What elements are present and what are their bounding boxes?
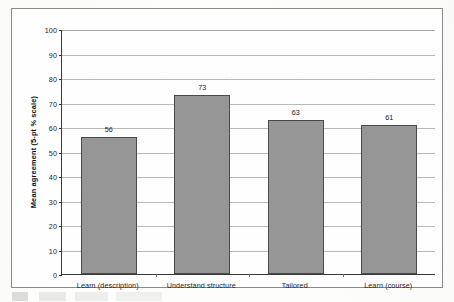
x-axis-category-label: Understand structure: [167, 281, 236, 290]
bar-slot: 63: [249, 30, 343, 274]
bar-slot: 61: [343, 30, 437, 274]
x-axis-category-label: Tailored: [282, 281, 308, 290]
y-axis-title: Mean agreement (5-pt % scale): [29, 96, 38, 208]
plot-axes: 0102030405060708090100 56736361: [61, 30, 435, 275]
bar[interactable]: [361, 125, 417, 274]
y-axis-tick-label: 40: [49, 173, 57, 182]
clipped-caption-artifact: [12, 292, 162, 301]
bar-slot: 56: [62, 30, 156, 274]
y-axis-tick-label: 20: [49, 222, 57, 231]
bar[interactable]: [268, 120, 324, 274]
x-axis-category-label: Learn (course): [364, 281, 412, 290]
y-axis-tick-label: 60: [49, 124, 57, 133]
y-axis-tick-label: 100: [45, 26, 57, 35]
bar-value-label: 61: [385, 113, 393, 122]
y-axis-tick-label: 70: [49, 99, 57, 108]
bar-slot: 73: [156, 30, 250, 274]
bar-series: 56736361: [62, 30, 435, 274]
bar-value-label: 56: [105, 125, 113, 134]
x-axis-tick-mark: [156, 274, 157, 277]
bar[interactable]: [81, 137, 137, 274]
y-axis-tick-label: 50: [49, 148, 57, 157]
y-axis-tick-label: 30: [49, 197, 57, 206]
chart-frame: Mean agreement (5-pt % scale) 0102030405…: [11, 8, 443, 288]
y-axis-tick-label: 0: [53, 271, 57, 280]
bar[interactable]: [174, 95, 230, 274]
plot-area: 0102030405060708090100 56736361: [61, 30, 435, 275]
bar-value-label: 73: [198, 83, 206, 92]
x-axis-tick-mark: [343, 274, 344, 277]
y-axis-tick-mark: [59, 275, 62, 276]
y-axis-tick-label: 10: [49, 246, 57, 255]
y-axis-tick-label: 80: [49, 75, 57, 84]
y-axis-tick-label: 90: [49, 50, 57, 59]
x-axis-tick-mark: [249, 274, 250, 277]
x-axis-category-label: Learn (description): [77, 281, 139, 290]
bar-value-label: 63: [292, 108, 300, 117]
